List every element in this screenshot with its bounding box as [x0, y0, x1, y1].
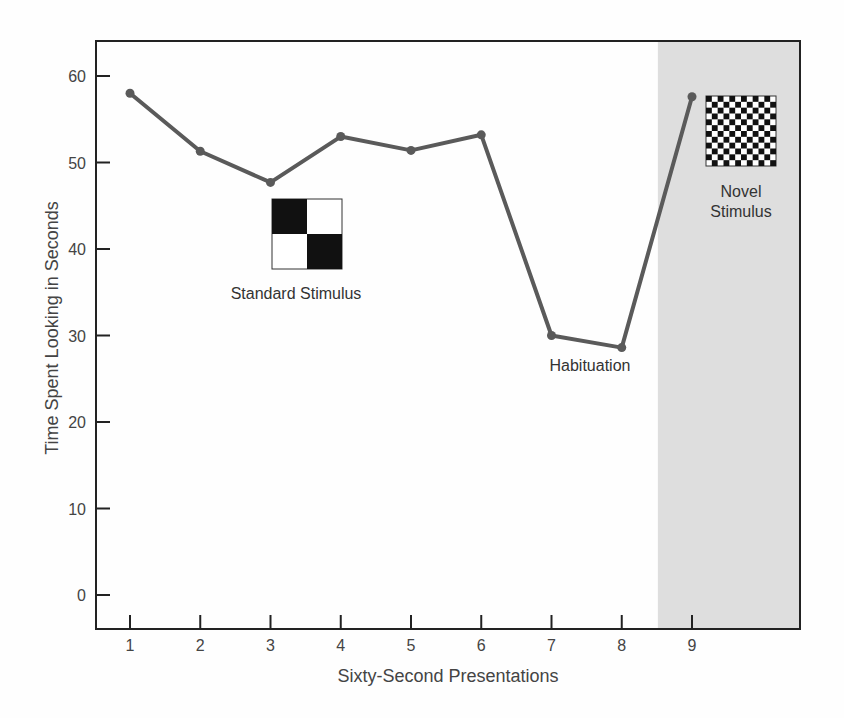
novel-stimulus-label-line1: Novel — [721, 183, 762, 200]
data-series — [126, 89, 697, 352]
habituation-line-chart: 0102030405060123456789 Standard Stimulus… — [0, 0, 844, 718]
x-tick-label: 5 — [407, 637, 416, 654]
data-point — [547, 331, 556, 340]
data-point — [407, 146, 416, 155]
data-point — [688, 92, 697, 101]
data-point — [196, 147, 205, 156]
x-tick-label: 6 — [477, 637, 486, 654]
data-point — [617, 343, 626, 352]
data-point — [336, 132, 345, 141]
novel-stimulus-icon — [706, 96, 776, 166]
x-tick-label: 2 — [196, 637, 205, 654]
y-tick-label: 50 — [68, 155, 86, 172]
data-point — [477, 130, 486, 139]
y-tick-label: 60 — [68, 68, 86, 85]
x-tick-label: 8 — [617, 637, 626, 654]
y-axis-title: Time Spent Looking in Seconds — [42, 201, 62, 455]
x-axis-title: Sixty-Second Presentations — [337, 666, 558, 686]
y-tick-label: 40 — [68, 241, 86, 258]
x-tick-label: 3 — [266, 637, 275, 654]
x-tick-label: 9 — [688, 637, 697, 654]
y-tick-label: 30 — [68, 328, 86, 345]
y-tick-label: 10 — [68, 501, 86, 518]
standard-stimulus-label: Standard Stimulus — [231, 285, 362, 302]
x-tick-label: 4 — [336, 637, 345, 654]
y-tick-label: 20 — [68, 414, 86, 431]
habituation-label: Habituation — [550, 357, 631, 374]
novel-stimulus-label-line2: Stimulus — [710, 203, 771, 220]
y-tick-label: 0 — [77, 587, 86, 604]
x-tick-label: 1 — [126, 637, 135, 654]
data-point — [126, 89, 135, 98]
series-line — [130, 93, 692, 347]
x-tick-label: 7 — [547, 637, 556, 654]
standard-stimulus-icon — [272, 199, 342, 269]
data-point — [266, 178, 275, 187]
